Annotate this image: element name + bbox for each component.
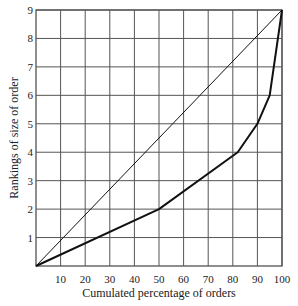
y-tick-label: 3 [28,175,34,187]
y-tick-label: 1 [28,232,34,244]
x-tick-label: 60 [178,273,190,285]
y-axis-ticks: 123456789 [28,4,34,244]
chart: 102030405060708090100 123456789 Cumulate… [0,0,298,306]
x-tick-label: 20 [80,273,92,285]
x-tick-label: 80 [227,273,239,285]
x-axis-ticks: 102030405060708090100 [55,273,291,285]
y-tick-label: 4 [28,146,34,158]
x-tick-label: 30 [104,273,116,285]
y-tick-label: 5 [28,118,34,130]
x-axis-label: Cumulated percentage of orders [82,286,236,300]
x-tick-label: 50 [154,273,166,285]
x-tick-label: 90 [252,273,264,285]
y-tick-label: 9 [28,4,34,16]
x-tick-label: 100 [274,273,291,285]
y-axis-label: Rankings of size of order [7,77,21,198]
y-tick-label: 6 [28,89,34,101]
y-tick-label: 2 [28,203,34,215]
x-tick-label: 40 [129,273,141,285]
x-tick-label: 70 [203,273,215,285]
x-tick-label: 10 [55,273,67,285]
y-tick-label: 8 [28,32,34,44]
y-tick-label: 7 [28,61,34,73]
